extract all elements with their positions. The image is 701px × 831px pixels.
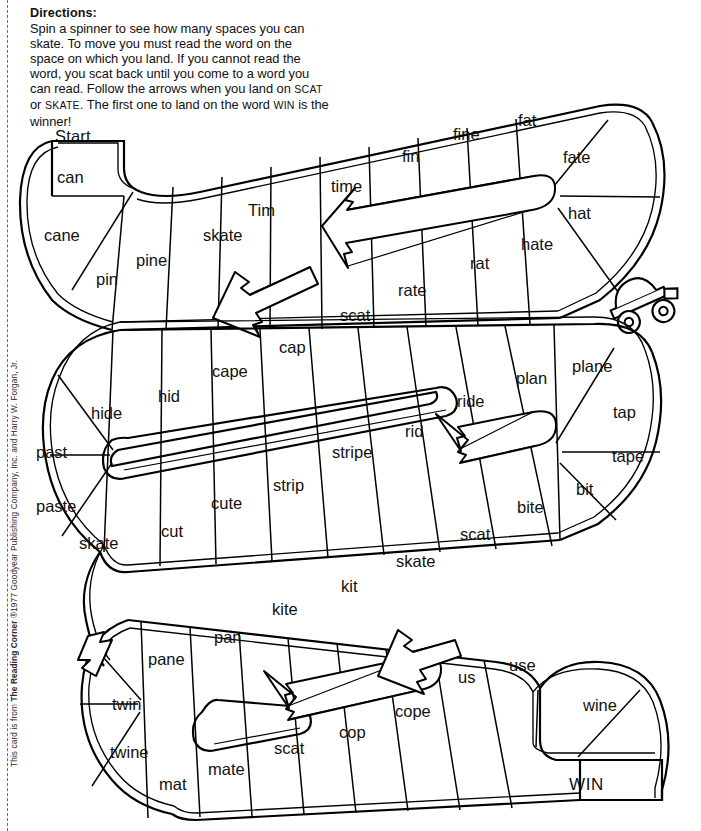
cell-mate: mate: [208, 760, 245, 778]
cell-time: time: [331, 177, 362, 195]
cell-past: past: [36, 443, 68, 461]
cell-cute: cute: [211, 494, 242, 512]
cell-scat: scat: [340, 306, 371, 324]
cell-can: can: [57, 168, 84, 186]
cell-ride: ride: [457, 392, 485, 410]
cell-pin: pin: [96, 270, 118, 288]
cell-cape: cape: [212, 362, 248, 380]
cell-twine: twine: [110, 743, 149, 761]
cell-bit: bit: [576, 480, 594, 498]
cell-hide: hide: [91, 404, 122, 422]
copyright-post: ®1977 Goodyear Publishing Company, Inc. …: [9, 360, 19, 621]
cell-plan: plan: [516, 369, 547, 387]
worksheet-page: Directions: Spin a spinner to see how ma…: [0, 0, 701, 831]
cell-rid: rid: [405, 422, 423, 440]
cell-tap: tap: [613, 403, 636, 421]
cell-skate2: skate: [79, 534, 118, 552]
copyright-pre: This card is from: [9, 702, 19, 767]
cell-fine: fine: [453, 125, 480, 143]
cell-cope: cope: [395, 702, 431, 720]
cell-rate: rate: [398, 281, 426, 299]
cell-rat: rat: [470, 254, 490, 272]
cell-fat: fat: [518, 111, 537, 129]
cell-kite: kite: [272, 600, 298, 618]
row-1-words: can cane pin pine skate Tim time fin fin…: [44, 111, 591, 324]
cell-mat: mat: [159, 775, 187, 793]
cell-twin: twin: [112, 695, 141, 713]
cell-stripe: stripe: [332, 443, 372, 461]
cell-fate: fate: [563, 148, 591, 166]
cell-bite: bite: [517, 498, 544, 516]
copyright-brand: The Reading Corner: [9, 620, 19, 701]
cell-hid: hid: [158, 387, 180, 405]
cell-win: WIN: [569, 775, 604, 794]
cell-plane: plane: [572, 357, 612, 375]
cell-skate: skate: [203, 226, 242, 244]
cell-skate3: skate: [396, 552, 435, 570]
cell-use: use: [509, 656, 536, 674]
copyright-notice: This card is from The Reading Corner ®19…: [9, 437, 19, 767]
cell-us: us: [458, 668, 475, 686]
cell-cap: cap: [279, 338, 306, 356]
cell-scat3: scat: [274, 739, 305, 757]
cell-strip: strip: [273, 476, 304, 494]
skate-arrow-row2: [436, 411, 556, 463]
cell-hat: hat: [568, 204, 591, 222]
cell-tim: Tim: [248, 201, 275, 219]
cell-fin: fin: [402, 147, 419, 165]
cell-cop: cop: [339, 723, 366, 741]
cell-cut: cut: [161, 522, 183, 540]
cell-kit: kit: [341, 577, 358, 595]
cell-cane: cane: [44, 226, 80, 244]
scat-arrow-row2-down: [78, 632, 112, 676]
cell-paste: paste: [36, 497, 76, 515]
cell-wine: wine: [582, 696, 617, 714]
cell-pane: pane: [148, 650, 185, 668]
game-board: can cane pin pine skate Tim time fin fin…: [0, 0, 701, 831]
cell-pine: pine: [136, 251, 167, 269]
cell-pan: pan: [214, 628, 242, 646]
cell-hate: hate: [521, 235, 553, 253]
cell-scat2: scat: [460, 525, 491, 543]
cell-tape: tape: [612, 447, 644, 465]
